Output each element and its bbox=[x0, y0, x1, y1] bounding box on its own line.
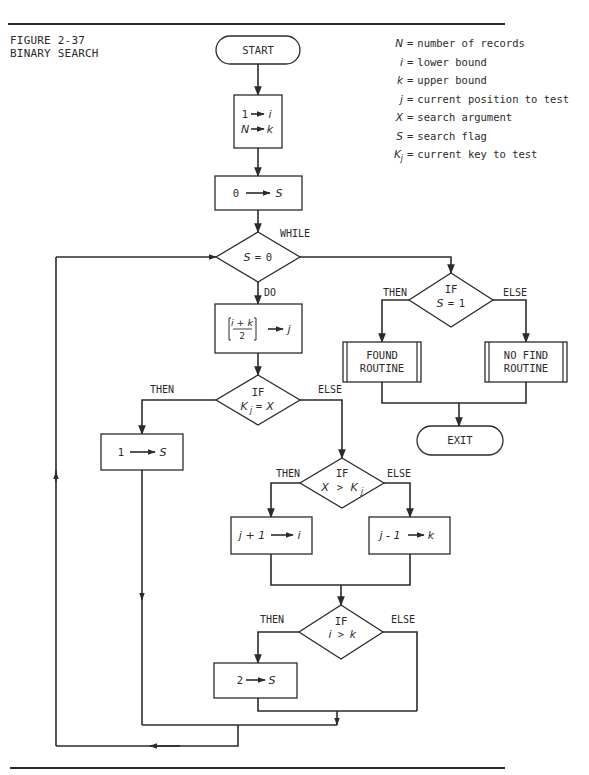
while-label: WHILE bbox=[280, 228, 310, 239]
svg-text:2: 2 bbox=[239, 330, 245, 341]
svg-text:S: S bbox=[437, 297, 444, 310]
svg-text:X: X bbox=[320, 481, 329, 494]
svg-text:i: i bbox=[268, 108, 271, 121]
svg-text:1: 1 bbox=[459, 297, 465, 309]
raise-lower-bound-box: j + 1 i bbox=[231, 517, 312, 554]
binary-search-flowchart: START 1 i N k 0 S S = 0 WHILE DO bbox=[0, 0, 589, 775]
then-label: THEN bbox=[383, 287, 407, 298]
svg-text:IF: IF bbox=[336, 467, 349, 479]
set-flag-zero-box: 0 S bbox=[215, 176, 302, 210]
svg-text:=: = bbox=[255, 251, 261, 263]
svg-text:i: i bbox=[297, 529, 300, 542]
then-label: THEN bbox=[276, 468, 300, 479]
do-label: DO bbox=[264, 287, 276, 298]
svg-text:START: START bbox=[242, 44, 274, 56]
else-label: ELSE bbox=[318, 384, 342, 395]
svg-text:>: > bbox=[338, 628, 344, 640]
set-flag-two-box: 2 S bbox=[214, 663, 297, 698]
exit-terminal: EXIT bbox=[417, 426, 503, 455]
found-routine-box: FOUND ROUTINE bbox=[343, 342, 421, 382]
else-label: ELSE bbox=[387, 468, 411, 479]
svg-text:IF: IF bbox=[252, 386, 265, 398]
svg-text:N: N bbox=[241, 123, 249, 136]
svg-text:S: S bbox=[160, 446, 167, 459]
svg-text:FOUND: FOUND bbox=[366, 349, 398, 361]
lower-upper-bound-box: j - 1 k bbox=[369, 517, 450, 554]
svg-text:0: 0 bbox=[266, 251, 272, 263]
then-label: THEN bbox=[150, 384, 174, 395]
svg-text:X: X bbox=[265, 400, 274, 413]
svg-text:S: S bbox=[276, 187, 283, 200]
else-label: ELSE bbox=[391, 614, 415, 625]
svg-text:=: = bbox=[448, 297, 454, 309]
svg-text:IF: IF bbox=[335, 615, 348, 627]
svg-text:k: k bbox=[267, 123, 274, 136]
svg-text:K: K bbox=[350, 481, 358, 494]
svg-text:0: 0 bbox=[233, 187, 239, 199]
else-label: ELSE bbox=[503, 287, 527, 298]
svg-text:1: 1 bbox=[242, 108, 248, 120]
set-flag-one-box: 1 S bbox=[101, 434, 183, 470]
svg-text:j - 1: j - 1 bbox=[377, 529, 400, 542]
svg-text:NO FIND: NO FIND bbox=[504, 349, 548, 361]
then-label: THEN bbox=[260, 614, 284, 625]
midpoint-box: i + k 2 j bbox=[215, 304, 302, 353]
svg-text:1: 1 bbox=[118, 446, 124, 458]
init-bounds-box: 1 i N k bbox=[234, 95, 282, 148]
svg-text:S: S bbox=[244, 251, 251, 264]
svg-text:=: = bbox=[256, 400, 262, 412]
svg-text:k: k bbox=[428, 529, 435, 542]
svg-text:i: i bbox=[328, 628, 331, 641]
svg-text:EXIT: EXIT bbox=[447, 434, 473, 446]
svg-text:2: 2 bbox=[237, 674, 243, 686]
svg-text:S: S bbox=[269, 674, 276, 687]
book-page: FIGURE 2-37 BINARY SEARCH N=number of re… bbox=[0, 0, 589, 775]
svg-text:i + k: i + k bbox=[231, 317, 254, 328]
svg-text:k: k bbox=[350, 628, 357, 641]
svg-text:>: > bbox=[337, 481, 343, 493]
svg-text:ROUTINE: ROUTINE bbox=[360, 362, 404, 374]
svg-text:ROUTINE: ROUTINE bbox=[504, 362, 548, 374]
no-find-routine-box: NO FIND ROUTINE bbox=[485, 342, 567, 382]
svg-text:K: K bbox=[240, 400, 248, 413]
while-diamond: S = 0 WHILE DO bbox=[216, 228, 310, 298]
svg-text:j + 1: j + 1 bbox=[237, 529, 265, 542]
start-terminal: START bbox=[216, 36, 300, 64]
svg-text:IF: IF bbox=[445, 283, 458, 295]
